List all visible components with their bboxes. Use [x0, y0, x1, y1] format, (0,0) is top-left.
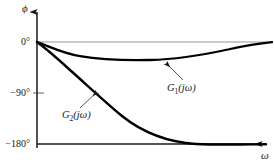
plot-canvas: [0, 0, 274, 163]
annotation-leader-g1: [166, 63, 183, 80]
curve-label-g1: G1(jω): [167, 83, 196, 96]
curve-label-g2-argument: (jω): [73, 109, 90, 120]
curve-label-g1-name: G: [167, 82, 175, 93]
curve-g2: [37, 42, 266, 145]
phase-plot-figure: ϕ ω 0° −90° −180° G1(jω) G2(jω): [0, 0, 274, 163]
y-tick-label-minus-180: −180°: [0, 139, 30, 149]
x-axis-label: ω: [261, 150, 269, 161]
curve-g1: [37, 42, 272, 60]
y-tick-label-minus-90: −90°: [0, 88, 30, 98]
y-axis-label: ϕ: [22, 3, 28, 14]
annotation-leader-g2: [80, 92, 97, 108]
curve-label-g2: G2(jω): [62, 110, 91, 123]
y-tick-label-0: 0°: [6, 37, 30, 47]
curve-label-g2-name: G: [62, 109, 70, 120]
curve-label-g1-argument: (jω): [178, 82, 195, 93]
